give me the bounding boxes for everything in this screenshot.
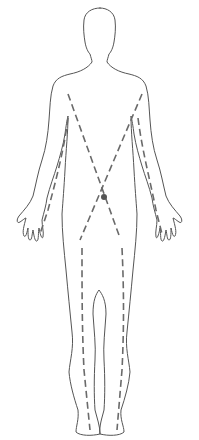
- body-diagram: [0, 0, 199, 440]
- left-leg-path: [82, 248, 90, 430]
- right-shoulder-to-cross-path: [80, 94, 142, 240]
- body-outline: [17, 8, 182, 435]
- body-outline-svg: [0, 0, 199, 440]
- right-arm-path: [138, 118, 162, 234]
- right-leg-path: [117, 248, 124, 430]
- center-point: [101, 194, 107, 200]
